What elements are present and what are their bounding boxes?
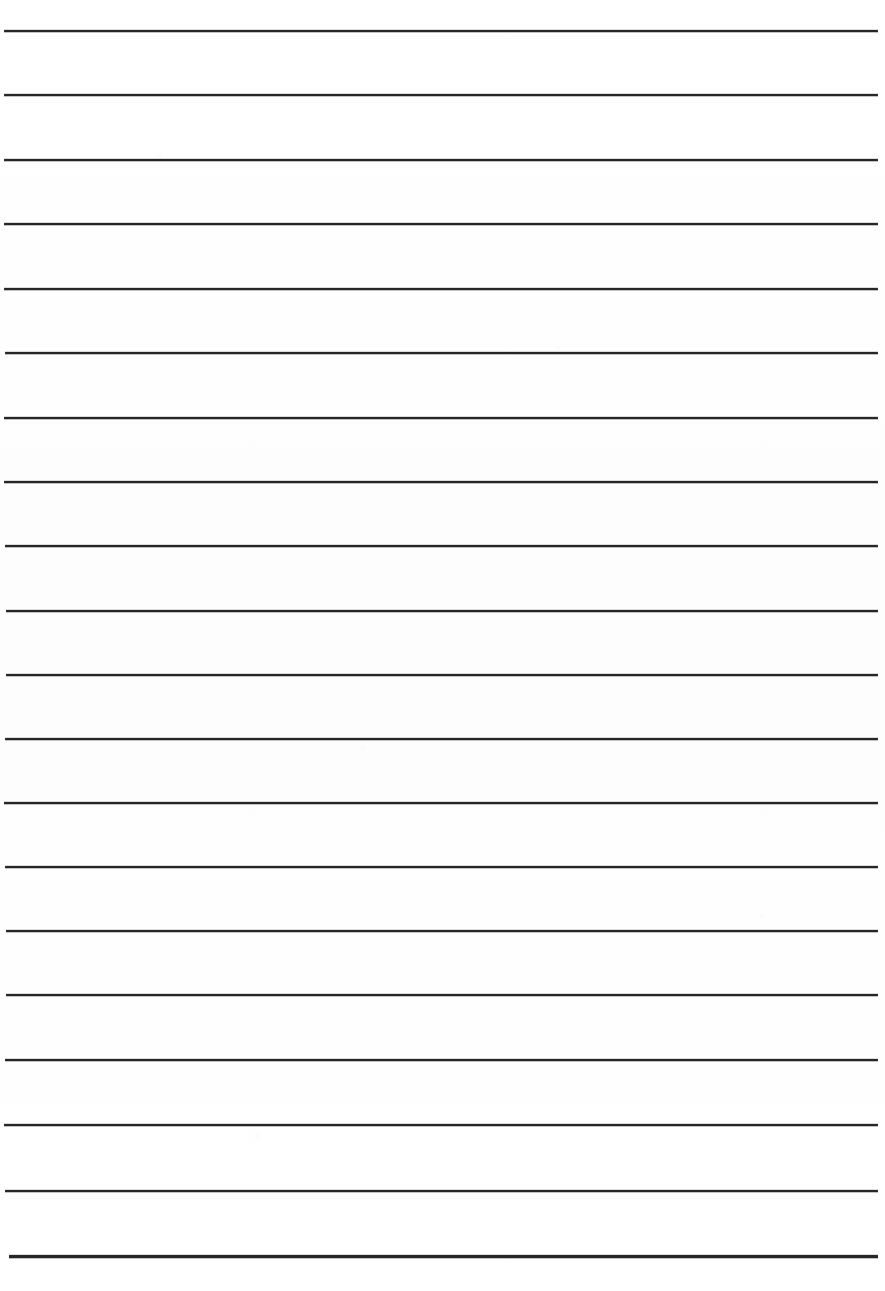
- ruled-line: [5, 738, 878, 740]
- ruled-line: [4, 1124, 878, 1126]
- ruled-line: [6, 994, 878, 996]
- ruled-line: [5, 1059, 878, 1061]
- ruled-line: [4, 94, 878, 96]
- ruled-line: [5, 1190, 878, 1192]
- ruled-line: [4, 481, 878, 483]
- ruled-line: [4, 30, 878, 32]
- ruled-line: [5, 545, 878, 547]
- scanned-page: [0, 0, 885, 1291]
- ruled-line: [5, 352, 878, 354]
- ruled-line: [5, 866, 878, 868]
- ruled-line: [4, 159, 878, 161]
- paper-grain-texture: [0, 0, 885, 1291]
- ruled-line: [4, 802, 878, 804]
- ruled-line: [6, 930, 878, 932]
- ruled-line: [4, 288, 878, 290]
- ruled-line: [6, 610, 878, 612]
- ruled-line: [4, 417, 878, 419]
- ruled-line: [6, 674, 878, 676]
- ruled-line: [4, 223, 878, 225]
- ruled-line: [9, 1255, 878, 1258]
